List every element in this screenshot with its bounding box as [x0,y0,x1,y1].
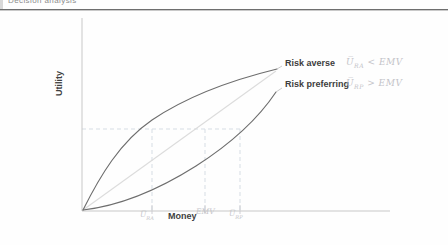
relation-greater-than: > [367,78,375,88]
emv-term-ra: EMV [379,57,403,67]
utility-money-chart [0,0,448,245]
emv-line [83,71,276,210]
leader-risk-preferring [276,88,282,92]
subscript-ra: RA [354,62,364,69]
subscript-rp: RP [354,83,364,90]
legend-label-risk-averse: Risk averse [285,58,335,68]
x-mark-u-ra-subscript: RA [146,215,154,221]
relation-less-than: < [367,57,375,67]
y-axis-title: Utility [54,71,64,96]
symbol-u-bar-rp: U̅ [346,78,354,88]
legend-leader-lines [276,66,282,92]
risk-preferring-curve [83,92,276,210]
leader-risk-averse [277,66,282,69]
x-mark-emv: EMV [196,207,215,216]
emv-term-rp: EMV [379,78,403,88]
x-mark-u-rp-subscript: RP [235,214,242,220]
x-mark-u-ra: U̅RA [140,210,154,221]
scanned-figure-page: Decision analysis [0,0,448,245]
handwritten-risk-preferring-equation: U̅RP > EMV [346,78,402,90]
x-axis-title: Money [168,211,197,221]
handwritten-risk-averse-equation: U̅RA < EMV [346,57,403,69]
legend-label-risk-preferring: Risk preferring [285,79,349,89]
axis-lines [82,18,390,211]
symbol-u-bar-ra: U̅ [346,57,354,67]
x-mark-u-rp: U̅RP [229,209,243,220]
